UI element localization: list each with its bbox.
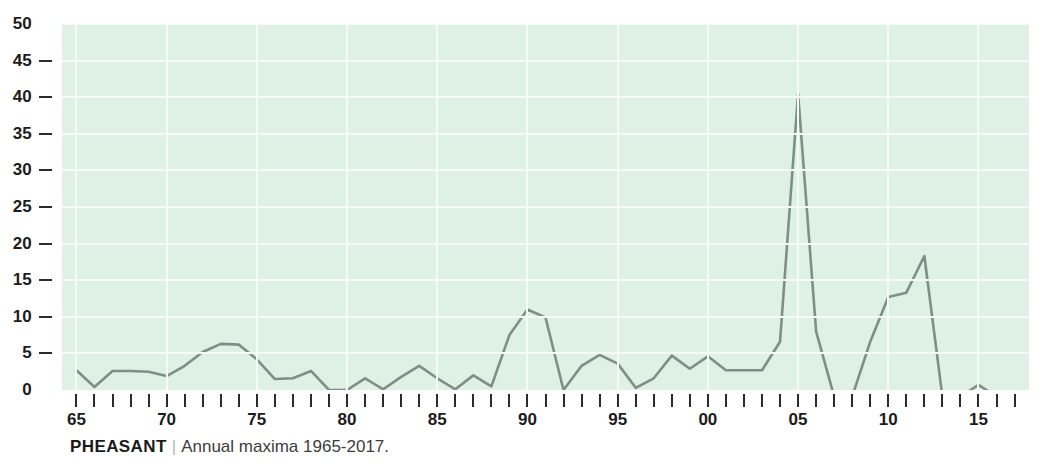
x-tick: [743, 394, 745, 407]
plot-area: [62, 24, 1029, 390]
gridline-horizontal: [62, 60, 1029, 62]
x-tick: [382, 394, 384, 407]
x-tick: [472, 394, 474, 407]
x-tick: [166, 394, 168, 407]
x-tick: [797, 394, 799, 407]
x-tick-label: 95: [608, 410, 627, 430]
gridline-horizontal: [62, 169, 1029, 171]
x-tick-label: 00: [698, 410, 717, 430]
gridline-vertical: [436, 24, 438, 390]
y-tick-dash: [39, 206, 52, 208]
x-tick: [130, 394, 132, 407]
y-tick-dash: [39, 169, 52, 171]
x-tick: [93, 394, 95, 407]
x-tick: [400, 394, 402, 407]
caption: PHEASANT|Annual maxima 1965-2017.: [70, 437, 389, 457]
x-tick: [671, 394, 673, 407]
x-tick: [959, 394, 961, 407]
y-tick-label: 20: [13, 234, 32, 254]
x-tick: [328, 394, 330, 407]
gridline-vertical: [617, 24, 619, 390]
x-tick: [418, 394, 420, 407]
y-tick-label: 10: [13, 307, 32, 327]
gridline-vertical: [346, 24, 348, 390]
y-tick-label: 5: [22, 343, 32, 363]
x-tick: [996, 394, 998, 407]
x-tick: [220, 394, 222, 407]
x-tick: [689, 394, 691, 407]
x-tick-label: 05: [789, 410, 808, 430]
x-tick: [292, 394, 294, 407]
gridline-horizontal: [62, 206, 1029, 208]
y-tick-dash: [39, 352, 52, 354]
x-tick: [112, 394, 114, 407]
caption-title: PHEASANT: [70, 437, 167, 456]
y-tick-label: 30: [13, 160, 32, 180]
y-tick-label: 40: [13, 87, 32, 107]
x-tick-label: 15: [969, 410, 988, 430]
y-tick-label: 50: [13, 14, 32, 34]
caption-subtitle: Annual maxima 1965-2017.: [181, 437, 389, 456]
x-tick: [887, 394, 889, 407]
x-tick: [256, 394, 258, 407]
gridline-horizontal: [62, 96, 1029, 98]
x-tick-label: 80: [338, 410, 357, 430]
x-tick: [653, 394, 655, 407]
x-tick: [581, 394, 583, 407]
y-tick-dash: [39, 279, 52, 281]
y-tick-label: 25: [13, 197, 32, 217]
y-tick-dash: [39, 96, 52, 98]
gridline-horizontal: [62, 243, 1029, 245]
x-tick: [545, 394, 547, 407]
x-tick-label: 90: [518, 410, 537, 430]
gridline-vertical: [75, 24, 77, 390]
gridline-vertical: [256, 24, 258, 390]
x-tick: [923, 394, 925, 407]
x-tick-label: 85: [428, 410, 447, 430]
gridline-horizontal: [62, 24, 1029, 25]
x-tick: [436, 394, 438, 407]
x-tick: [617, 394, 619, 407]
gridline-vertical: [166, 24, 168, 390]
gridline-vertical: [797, 24, 799, 390]
x-tick-label: 70: [157, 410, 176, 430]
gridline-horizontal: [62, 316, 1029, 318]
x-tick: [202, 394, 204, 407]
x-tick: [905, 394, 907, 407]
x-tick: [779, 394, 781, 407]
x-tick: [599, 394, 601, 407]
gridline-vertical: [887, 24, 889, 390]
x-tick: [364, 394, 366, 407]
x-tick: [310, 394, 312, 407]
chart-figure: 05101520253035404550 6570758085909500051…: [0, 0, 1055, 475]
x-tick-label: 75: [247, 410, 266, 430]
y-tick-label: 45: [13, 51, 32, 71]
x-tick: [454, 394, 456, 407]
gridline-horizontal: [62, 279, 1029, 281]
y-tick-dash: [39, 316, 52, 318]
gridline-vertical: [977, 24, 979, 390]
x-tick: [635, 394, 637, 407]
x-tick: [833, 394, 835, 407]
x-tick: [274, 394, 276, 407]
x-tick: [707, 394, 709, 407]
x-tick: [815, 394, 817, 407]
caption-separator: |: [167, 437, 181, 456]
x-axis: 6570758085909500051015: [62, 390, 1029, 435]
y-tick-label: 35: [13, 124, 32, 144]
x-tick: [238, 394, 240, 407]
gridline-horizontal: [62, 133, 1029, 135]
x-tick: [490, 394, 492, 407]
x-tick: [725, 394, 727, 407]
x-tick: [148, 394, 150, 407]
gridline-vertical: [707, 24, 709, 390]
x-tick-label: 10: [879, 410, 898, 430]
x-tick: [184, 394, 186, 407]
x-tick: [75, 394, 77, 407]
y-tick-label: 15: [13, 270, 32, 290]
x-tick: [761, 394, 763, 407]
y-tick-dash: [39, 243, 52, 245]
gridline-vertical: [526, 24, 528, 390]
x-tick: [977, 394, 979, 407]
x-tick: [1014, 394, 1016, 407]
